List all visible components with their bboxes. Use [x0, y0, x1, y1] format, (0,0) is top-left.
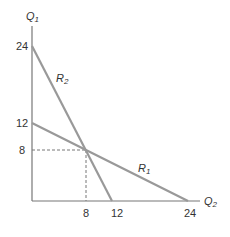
r1-label: R1 — [138, 162, 150, 176]
y-tick-8: 8 — [19, 144, 25, 156]
x-axis-label: Q2 — [204, 195, 218, 209]
r1-line — [32, 123, 188, 201]
r2-line — [32, 46, 112, 201]
reaction-curves-chart: Q1 Q2 R2 R1 24 12 8 8 12 24 — [0, 0, 230, 237]
y-tick-12: 12 — [16, 117, 28, 129]
x-tick-8: 8 — [83, 207, 89, 219]
x-tick-24: 24 — [184, 207, 196, 219]
y-axis-label: Q1 — [26, 10, 39, 24]
r2-label: R2 — [56, 72, 69, 86]
x-tick-12: 12 — [111, 207, 123, 219]
y-tick-24: 24 — [16, 40, 28, 52]
